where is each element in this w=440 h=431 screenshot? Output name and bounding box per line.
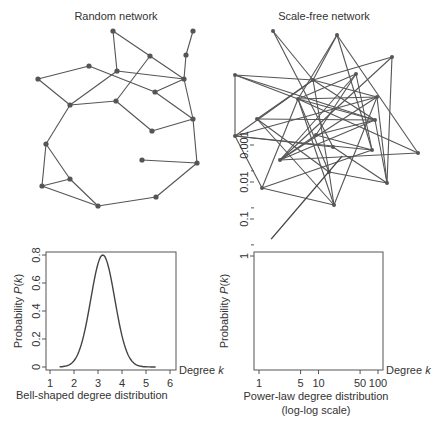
power-law-chart: 1510501000.0010.010.11 Probability P(k) … — [218, 131, 431, 416]
network-edge — [113, 31, 150, 56]
network-node — [43, 141, 48, 146]
y-tick-label: 0.1 — [238, 211, 250, 226]
x-tick-label: 5 — [298, 377, 304, 389]
power-caption-line1: Power-law degree distribution — [244, 390, 389, 402]
network-edge — [38, 79, 70, 105]
network-node — [114, 68, 119, 73]
y-tick-label: 0 — [30, 364, 42, 370]
bell-chart: 12345600.20.40.60.8 Probability P(k) Deg… — [12, 247, 224, 401]
network-node — [271, 29, 275, 33]
network-node — [233, 73, 237, 77]
network-node — [113, 98, 118, 103]
network-node — [39, 183, 44, 188]
bell-caption: Bell-shaped degree distribution — [16, 389, 168, 401]
network-node — [183, 52, 188, 57]
network-edge — [70, 71, 117, 105]
network-node — [314, 133, 318, 137]
network-node — [390, 55, 394, 59]
network-edge — [116, 101, 152, 131]
network-node — [335, 33, 339, 37]
network-edge — [98, 197, 156, 206]
network-edge — [186, 31, 193, 55]
network-edge — [155, 79, 184, 92]
network-edge — [38, 66, 89, 79]
x-tick-label: 5 — [143, 377, 149, 389]
network-edge — [42, 186, 98, 206]
random-network-graph — [35, 28, 199, 208]
scale-free-network-graph — [233, 29, 420, 207]
network-edge — [152, 119, 193, 131]
network-edge — [337, 35, 372, 150]
power-caption-line2: (log-log scale) — [281, 404, 350, 416]
network-edge — [42, 179, 70, 186]
network-edge — [184, 55, 186, 79]
network-node — [260, 186, 264, 190]
network-edge — [273, 31, 313, 80]
network-node — [311, 78, 315, 82]
bell-plot-frame — [46, 252, 176, 370]
network-edge — [42, 144, 46, 186]
y-tick-label: 1 — [238, 253, 250, 259]
network-node — [233, 134, 237, 138]
network-node — [110, 28, 115, 33]
network-node — [149, 128, 154, 133]
network-node — [35, 76, 40, 81]
x-tick-label: 100 — [369, 377, 387, 389]
network-edge — [262, 188, 334, 205]
network-node — [373, 118, 377, 122]
network-node — [375, 95, 379, 99]
network-node — [67, 102, 72, 107]
scale-free-network-title: Scale-free network — [278, 10, 370, 22]
network-node — [385, 181, 389, 185]
network-node — [332, 203, 336, 207]
x-tick-label: 50 — [354, 377, 366, 389]
network-node — [370, 148, 374, 152]
network-edge — [356, 74, 372, 150]
network-node — [190, 28, 195, 33]
network-node — [86, 63, 91, 68]
network-node — [181, 76, 186, 81]
power-ylabel: Probability P(k) — [218, 274, 230, 349]
y-tick-label: 0.8 — [30, 247, 42, 262]
network-edge — [193, 119, 197, 163]
network-node — [255, 117, 259, 121]
x-tick-label: 6 — [167, 377, 173, 389]
x-tick-label: 10 — [312, 377, 324, 389]
x-tick-label: 4 — [119, 377, 125, 389]
power-plot-frame — [254, 252, 383, 370]
network-node — [95, 203, 100, 208]
network-node — [416, 151, 420, 155]
network-edge — [113, 31, 117, 71]
y-tick-label: 0.001 — [238, 131, 250, 159]
network-node — [190, 116, 195, 121]
x-tick-label: 1 — [256, 377, 262, 389]
random-network-title: Random network — [74, 10, 158, 22]
figure: Random network Scale-free network 123456… — [0, 0, 440, 431]
bell-curve — [60, 255, 156, 367]
network-edge — [142, 160, 197, 163]
network-edge — [70, 179, 98, 206]
network-node — [147, 53, 152, 58]
network-node — [194, 160, 199, 165]
bell-xlabel: Degree k — [179, 364, 224, 376]
network-node — [139, 157, 144, 162]
network-node — [354, 72, 358, 76]
bell-ylabel: Probability P(k) — [12, 274, 24, 349]
network-node — [67, 176, 72, 181]
y-tick-label: 0.4 — [30, 303, 42, 318]
network-edge — [387, 57, 392, 183]
network-edge — [89, 66, 155, 92]
network-edge — [156, 163, 197, 197]
y-tick-label: 0.01 — [238, 171, 250, 192]
network-node — [296, 97, 300, 101]
x-tick-label: 3 — [95, 377, 101, 389]
network-node — [331, 145, 335, 149]
network-edge — [298, 97, 377, 99]
power-xlabel: Degree k — [386, 364, 431, 376]
network-edge — [46, 105, 70, 144]
y-tick-label: 0.2 — [30, 331, 42, 346]
x-tick-label: 2 — [71, 377, 77, 389]
network-edge — [273, 31, 333, 147]
x-tick-label: 1 — [47, 377, 53, 389]
network-node — [152, 89, 157, 94]
